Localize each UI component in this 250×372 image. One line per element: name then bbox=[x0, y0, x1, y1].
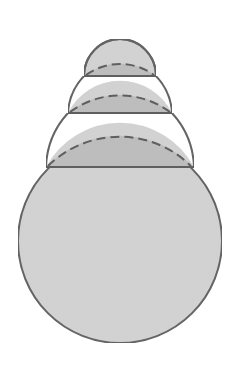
diagram-canvas bbox=[0, 0, 250, 372]
stacked-segments-figure bbox=[0, 0, 250, 372]
big-circle bbox=[18, 139, 222, 343]
cap-2 bbox=[68, 76, 172, 113]
cap-3 bbox=[46, 113, 194, 167]
